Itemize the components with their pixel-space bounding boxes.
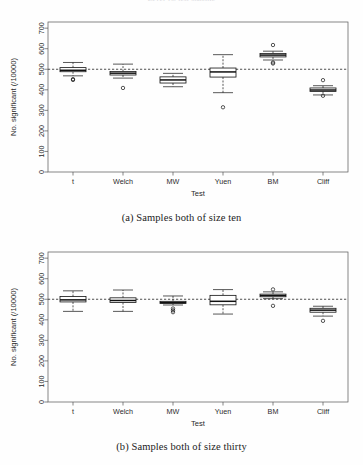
- outlier-point: [321, 78, 324, 81]
- figure-panel-a: 0100200300400500600700No. significant (/…: [0, 6, 363, 223]
- clipped-figure-title: Level vs. test statistic: [0, 0, 363, 3]
- boxplot-t: [60, 62, 86, 81]
- caption-b: (b) Samples both of size thirty: [0, 441, 363, 452]
- x-tick-label-welch: Welch: [113, 407, 133, 416]
- boxplot-welch: [110, 64, 136, 90]
- x-tick-label-welch: Welch: [113, 177, 133, 186]
- x-tick-label-mw: MW: [167, 177, 180, 186]
- x-axis-title: Test: [191, 189, 206, 198]
- y-tick-label: 200: [37, 355, 46, 367]
- x-tick-label-yuen: Yuen: [215, 177, 231, 186]
- outlier-point: [221, 106, 224, 109]
- y-tick-label: 0: [37, 400, 46, 404]
- plot-frame: [48, 22, 348, 172]
- y-tick-label: 600: [37, 43, 46, 55]
- y-tick-label: 0: [37, 170, 46, 174]
- x-tick-label-bm: BM: [268, 407, 279, 416]
- outlier-point: [321, 94, 324, 97]
- outlier-point: [321, 319, 324, 322]
- figure-page: Level vs. test statistic 010020030040050…: [0, 0, 363, 465]
- boxplot-bm: [260, 288, 286, 308]
- y-tick-label: 100: [37, 145, 46, 157]
- outlier-point: [121, 86, 124, 89]
- y-tick-label: 500: [37, 293, 46, 305]
- boxplot-t: [60, 291, 86, 312]
- x-tick-label-yuen: Yuen: [215, 407, 231, 416]
- boxplot-bm: [260, 43, 286, 65]
- x-tick-label-cliff: Cliff: [317, 177, 329, 186]
- boxplot-mw: [160, 73, 186, 86]
- boxplot-mw: [160, 296, 186, 314]
- boxplot-cliff: [310, 78, 336, 97]
- boxplot-welch: [110, 290, 136, 311]
- y-tick-label: 700: [37, 22, 46, 34]
- outlier-point: [271, 43, 274, 46]
- outlier-point: [271, 304, 274, 307]
- x-axis-title: Test: [191, 419, 206, 428]
- boxplot-cliff: [310, 306, 336, 322]
- x-tick-label-bm: BM: [268, 177, 279, 186]
- y-tick-label: 300: [37, 104, 46, 116]
- x-tick-label-mw: MW: [167, 407, 180, 416]
- y-tick-label: 700: [37, 252, 46, 264]
- x-tick-label-cliff: Cliff: [317, 407, 329, 416]
- figure-panel-b: 0100200300400500600700No. significant (/…: [0, 240, 363, 452]
- y-tick-label: 100: [37, 375, 46, 387]
- boxplot-yuen: [210, 55, 236, 109]
- y-tick-label: 200: [37, 125, 46, 137]
- box-iqr: [210, 295, 236, 304]
- y-axis-title: No. significant (/10000): [9, 287, 18, 366]
- boxplot-chart-b: 0100200300400500600700No. significant (/…: [0, 240, 363, 440]
- boxplot-chart-a: 0100200300400500600700No. significant (/…: [0, 6, 363, 211]
- y-tick-label: 400: [37, 314, 46, 326]
- y-tick-label: 500: [37, 63, 46, 75]
- caption-a: (a) Samples both of size ten: [0, 212, 363, 223]
- plot-frame: [48, 252, 348, 402]
- y-tick-label: 400: [37, 84, 46, 96]
- outlier-point: [271, 288, 274, 291]
- y-tick-label: 300: [37, 334, 46, 346]
- x-tick-label-t: t: [72, 177, 74, 186]
- y-tick-label: 600: [37, 273, 46, 285]
- x-tick-label-t: t: [72, 407, 74, 416]
- y-axis-title: No. significant (/10000): [9, 57, 18, 136]
- boxplot-yuen: [210, 290, 236, 314]
